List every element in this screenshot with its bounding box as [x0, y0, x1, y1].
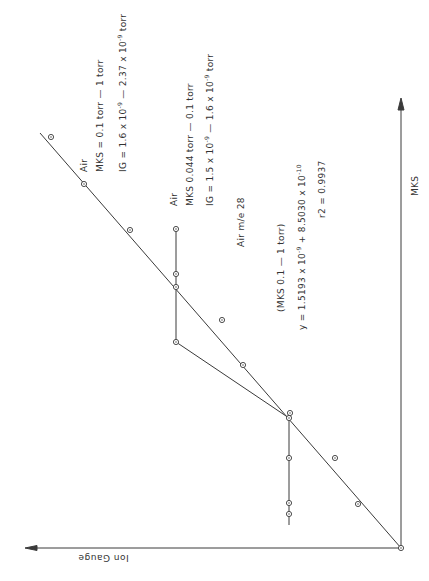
fit-equation: y = 1.5193 x 10-9 + 8.5030 x 10-10 — [296, 164, 307, 330]
step-series-line — [176, 229, 289, 525]
fit-range-label: (MKS 0.1 — 1 torr) — [277, 223, 286, 312]
group1-mks-range: MKS = 0.1 torr — 1 torr — [96, 59, 105, 172]
group1-ig-exp1: -9 — [116, 102, 123, 109]
group2-ig-unit: torr — [205, 54, 215, 75]
r-squared-label: r2 = 0.9937 — [318, 161, 327, 218]
data-points — [48, 134, 403, 550]
ion-gauge-axis-arrow-icon — [25, 546, 37, 551]
group2-mks-range: MKS 0.044 torr — 0.1 torr — [186, 83, 195, 206]
mks-axis-arrow-icon — [398, 98, 404, 110]
group2-ig-exp2: -9 — [203, 74, 210, 81]
fit-eq-a: y = 1.5193 x 10 — [297, 253, 307, 330]
group1-ig-exp2: -9 — [116, 34, 123, 41]
mass-label: Air m/e 28 — [237, 197, 246, 247]
group1-gas-label: Air — [80, 159, 89, 172]
group1-ig-unit: torr — [118, 14, 128, 35]
data-point-centers — [50, 136, 401, 548]
group2-ig-range: IG = 1.5 x 10-9 — 1.6 x 10-9 torr — [204, 54, 215, 206]
fit-eq-exp2: -10 — [295, 164, 302, 175]
group2-ig-a: IG = 1.5 x 10 — [205, 142, 215, 206]
group2-ig-exp1: -9 — [203, 136, 210, 143]
group1-ig-b: — 2.37 x 10 — [118, 41, 128, 102]
group2-ig-b: — 1.6 x 10 — [205, 81, 215, 136]
x-axis-label: MKS — [411, 176, 420, 196]
group2-gas-label: Air — [170, 193, 179, 206]
fit-eq-b: + 8.5030 x 10 — [297, 175, 307, 246]
regression-line — [40, 133, 401, 548]
y-axis-label: Ion Gauge — [78, 553, 129, 563]
group1-ig-range: IG = 1.6 x 10-9 — 2.37 x 10-9 torr — [117, 14, 128, 172]
fit-eq-exp1: -9 — [295, 246, 302, 253]
group1-ig-a: IG = 1.6 x 10 — [118, 108, 128, 172]
